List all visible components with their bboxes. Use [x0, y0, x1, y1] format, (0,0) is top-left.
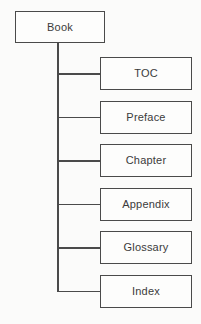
node-toc: TOC — [100, 57, 192, 90]
node-appendix-label: Appendix — [122, 199, 169, 210]
connector-branch-toc — [57, 73, 100, 75]
node-chapter: Chapter — [100, 144, 192, 177]
connector-branch-glossary — [57, 247, 100, 249]
node-chapter-label: Chapter — [126, 155, 167, 166]
book-structure-diagram: Book TOC Preface Chapter Appendix Glossa… — [0, 0, 201, 324]
node-book: Book — [15, 11, 105, 43]
node-toc-label: TOC — [134, 68, 158, 79]
node-index: Index — [100, 275, 192, 308]
node-preface: Preface — [100, 101, 192, 134]
connector-branch-preface — [57, 117, 100, 119]
node-glossary-label: Glossary — [124, 242, 169, 253]
connector-branch-appendix — [57, 204, 100, 206]
connector-trunk-line — [57, 43, 59, 292]
connector-branch-chapter — [57, 160, 100, 162]
node-preface-label: Preface — [126, 112, 165, 123]
node-book-label: Book — [47, 22, 73, 33]
node-appendix: Appendix — [100, 188, 192, 221]
node-glossary: Glossary — [100, 231, 192, 264]
connector-branch-index — [57, 291, 100, 293]
node-index-label: Index — [132, 286, 160, 297]
